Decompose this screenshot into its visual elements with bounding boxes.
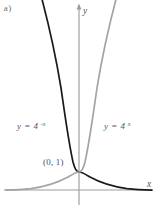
equation-exponent: x: [128, 121, 131, 127]
equation-base: 4: [121, 121, 126, 131]
graph-canvas: [0, 0, 157, 214]
equals-sign: =: [110, 121, 118, 131]
equation-exponent: -x: [41, 121, 46, 127]
y-intercept-point-label: (0, 1): [43, 158, 64, 167]
left-curve-equation-label: y = 4 -x: [17, 122, 45, 131]
equation-lhs: y: [104, 121, 108, 131]
equation-lhs: y: [17, 121, 21, 131]
y-axis-arrow-icon: [77, 4, 82, 10]
equation-base: 4: [34, 121, 39, 131]
right-curve-equation-label: y = 4 x: [104, 122, 130, 131]
equals-sign: =: [23, 121, 31, 131]
y-axis-label: y: [83, 7, 87, 17]
exponential-graph-figure: . a) y x y = 4 -x y = 4 x (0, 1): [0, 0, 157, 214]
x-axis-label: x: [147, 180, 151, 190]
